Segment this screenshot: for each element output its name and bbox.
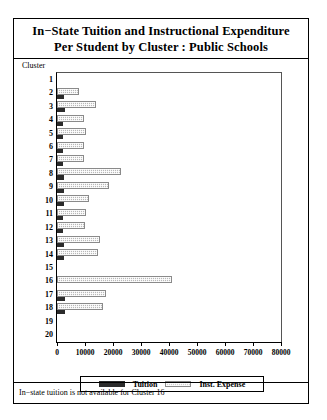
bar-tuition [57,122,63,126]
y-axis-tick-label: 5 [49,130,53,138]
x-axis-tick-label: 0 [55,348,59,357]
title-divider [14,58,308,59]
bar-tuition [57,189,64,193]
y-axis-tick-label: 15 [45,264,53,272]
y-axis-tick-label: 14 [45,251,53,259]
bar-tuition [57,310,65,314]
y-axis-tick-label: 7 [49,156,53,164]
x-axis-tick [225,342,226,346]
bar-tuition [57,162,63,166]
chart-title: In−State Tuition and Instructional Expen… [14,19,308,55]
y-axis-tick-label: 19 [45,318,53,326]
legend-label-expense: Inst. Expense [199,380,245,389]
y-axis-tick-label: 9 [49,183,53,191]
bar-inst-expense [57,101,96,108]
x-axis-tick [141,342,142,346]
x-axis-tick [85,342,86,346]
bar-tuition [57,229,63,233]
chart-footnote: In−state tuition is not available for Cl… [19,388,165,397]
bar-tuition [57,243,64,247]
y-axis-tick-label: 16 [45,277,53,285]
chart-title-line1: In−State Tuition and Instructional Expen… [14,23,308,39]
x-axis-tick-label: 10000 [76,348,95,357]
bar-tuition [57,256,64,260]
plot-area: 1234567891011121314151617181920010000200… [56,72,282,343]
x-axis-tick [169,342,170,346]
bar-inst-expense [57,182,109,189]
y-axis-tick-label: 2 [49,89,53,97]
x-axis-tick-label: 60000 [216,348,235,357]
bar-inst-expense [57,168,121,175]
y-axis-tick-label: 1 [49,76,53,84]
bar-inst-expense [57,290,106,297]
bar-inst-expense [57,155,84,162]
bar-tuition [57,216,63,220]
bar-tuition [57,175,64,179]
y-axis-tick-label: 6 [49,143,53,151]
chart-frame: In−State Tuition and Instructional Expen… [13,18,309,404]
bar-inst-expense [57,249,98,256]
x-axis-tick-label: 50000 [188,348,207,357]
x-axis-tick [113,342,114,346]
x-axis-tick [281,342,282,346]
bar-inst-expense [57,195,89,202]
bar-inst-expense [57,128,86,135]
bar-inst-expense [57,276,172,283]
x-axis-tick-label: 30000 [132,348,151,357]
bar-tuition [57,95,64,99]
bar-tuition [57,149,63,153]
y-axis-tick-label: 12 [45,224,53,232]
x-axis-tick [197,342,198,346]
y-axis-caption: Cluster [22,61,45,70]
x-axis-tick-label: 20000 [104,348,123,357]
bar-inst-expense [57,209,86,216]
bar-inst-expense [57,222,85,229]
y-axis-tick-label: 11 [45,210,53,218]
y-axis-tick-label: 17 [45,291,53,299]
bar-tuition [57,135,63,139]
bar-inst-expense [57,236,100,243]
x-axis-tick [57,342,58,346]
y-axis-tick-label: 4 [49,116,53,124]
chart-title-line2: Per Student by Cluster : Public Schools [14,39,308,55]
bar-inst-expense [57,88,79,95]
bar-tuition [57,108,65,112]
x-axis-tick-label: 70000 [244,348,263,357]
bar-inst-expense [57,303,103,310]
x-axis-tick-label: 80000 [272,348,291,357]
y-axis-tick-label: 3 [49,103,53,111]
y-axis-tick-label: 18 [45,304,53,312]
x-axis-tick [253,342,254,346]
bar-tuition [57,202,64,206]
y-axis-tick-label: 10 [45,197,53,205]
y-axis-tick-label: 20 [45,331,53,339]
bar-inst-expense [57,142,84,149]
bar-tuition [57,297,65,301]
y-axis-tick-label: 8 [49,170,53,178]
bar-inst-expense [57,115,84,122]
x-axis-tick-label: 40000 [160,348,179,357]
footnote-divider [14,382,308,383]
y-axis-tick-label: 13 [45,237,53,245]
